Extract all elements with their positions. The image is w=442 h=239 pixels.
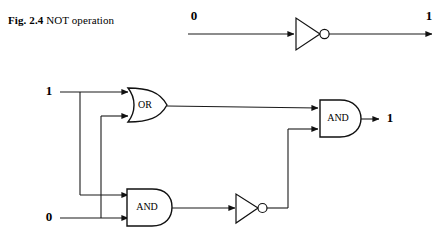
and-gate-right: AND: [320, 100, 361, 137]
not-gate-bubble-top: [320, 29, 329, 38]
circuit-diagram: 0 1 1 0: [0, 0, 442, 239]
top-output-value-label: 1: [426, 8, 433, 23]
not-gate-icon-top: [296, 18, 329, 50]
main-output-value-label: 1: [387, 110, 394, 125]
not-gate-icon-lower: [236, 194, 267, 223]
and-gate-lower-label: AND: [136, 201, 158, 212]
or-output-wire: [167, 106, 318, 108]
or-gate: OR: [128, 88, 167, 122]
top-not-circuit: 0 1: [188, 8, 432, 50]
top-input-value-label: 0: [191, 8, 198, 23]
and-gate-lower: AND: [127, 189, 172, 226]
or-gate-label: OR: [138, 99, 152, 110]
figure-container: Fig. 2.4 NOT operation 0 1 1 0: [0, 0, 442, 239]
not-gate-triangle-top: [296, 18, 320, 50]
main-combinational-circuit: 1 0 OR AND: [46, 83, 394, 226]
main-input-bottom-value-label: 0: [46, 209, 53, 224]
not-gate-bubble-lower: [258, 204, 267, 213]
main-input-top-value-label: 1: [46, 83, 53, 98]
not-gate-triangle-lower: [236, 194, 258, 223]
and-gate-right-label: AND: [327, 112, 349, 123]
